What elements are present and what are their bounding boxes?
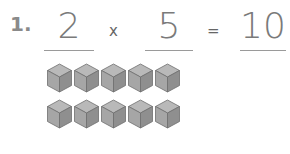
factor1-value: 2: [58, 5, 81, 46]
cube-icon: [154, 98, 181, 130]
cube-icon: [46, 62, 73, 94]
cube-icon: [73, 62, 100, 94]
factor2-value: 5: [158, 5, 181, 46]
cube-icon: [100, 62, 127, 94]
cube-icon: [127, 62, 154, 94]
cube-icon: [154, 62, 181, 94]
factor1-blank[interactable]: 2: [44, 2, 94, 51]
cube-icon: [73, 98, 100, 130]
cube-row-1: [46, 62, 181, 94]
cube-row-2: [46, 98, 181, 130]
cube-icon: [46, 98, 73, 130]
equals-sign: =: [207, 22, 220, 40]
product-value: 10: [240, 5, 286, 46]
problem-number: 1.: [10, 12, 32, 36]
cube-icon: [127, 98, 154, 130]
product-blank[interactable]: 10: [240, 2, 286, 51]
multiply-sign: x: [109, 22, 118, 40]
factor2-blank[interactable]: 5: [145, 2, 193, 51]
cube-icon: [100, 98, 127, 130]
